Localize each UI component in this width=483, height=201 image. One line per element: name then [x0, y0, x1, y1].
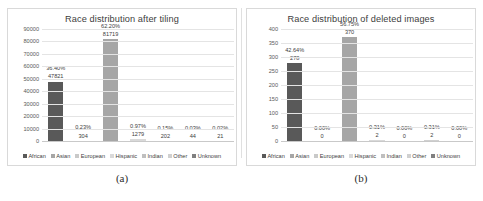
- legend-item-african[interactable]: African: [23, 153, 46, 159]
- legend-label: Indian: [387, 153, 402, 159]
- legend-label: Unknown: [437, 153, 460, 159]
- chart-a-bar-slot: 36.40%47821: [42, 29, 69, 141]
- chart-a-bar-slot: 0.03%44: [179, 29, 206, 141]
- chart-a-gridline: [42, 104, 234, 105]
- chart-b-y-tick: 50: [272, 124, 278, 130]
- legend-item-hispanic[interactable]: Hispanic: [110, 153, 137, 159]
- chart-b-plot-area: 050100150200250300350400 42.64%2780.00%0…: [247, 29, 477, 141]
- legend-item-other[interactable]: Other: [168, 153, 188, 159]
- chart-a-legend: AfricanAsianEuropeanHispanicIndianOtherU…: [8, 153, 236, 159]
- chart-b-y-tick: 400: [269, 26, 278, 32]
- chart-b-y-tick: 150: [269, 96, 278, 102]
- legend-label: European: [81, 153, 105, 159]
- legend-label: African: [267, 153, 284, 159]
- legend-label: Unknown: [198, 153, 221, 159]
- legend-swatch-icon: [349, 154, 353, 158]
- legend-item-indian[interactable]: Indian: [142, 153, 163, 159]
- caption-b: (b): [355, 172, 368, 184]
- chart-b-gridline: [281, 141, 473, 142]
- chart-b-y-tick: 250: [269, 68, 278, 74]
- chart-a-grid: 36.40%478210.23%30462.20%817190.97%12790…: [42, 29, 234, 141]
- legend-swatch-icon: [110, 154, 114, 158]
- chart-a-bar-slot: 0.97%1279: [124, 29, 151, 141]
- legend-swatch-icon: [51, 154, 55, 158]
- caption-a: (a): [116, 172, 128, 184]
- legend-swatch-icon: [431, 154, 435, 158]
- chart-a-bar-slot: 0.02%21: [207, 29, 234, 141]
- chart-b-legend: AfricanAsianEuropeanHispanicIndianOtherU…: [247, 153, 475, 159]
- chart-a-gridline: [42, 41, 234, 42]
- legend-swatch-icon: [142, 154, 146, 158]
- chart-b-gridline: [281, 71, 473, 72]
- chart-a-bar-slot: 0.15%202: [152, 29, 179, 141]
- chart-b-gridline: [281, 127, 473, 128]
- legend-swatch-icon: [407, 154, 411, 158]
- chart-b-y-tick: 100: [269, 110, 278, 116]
- chart-a-bar-slot: 0.23%304: [69, 29, 96, 141]
- chart-a-bar-slot: 62.20%81719: [97, 29, 124, 141]
- legend-swatch-icon: [314, 154, 318, 158]
- legend-label: Asian: [295, 153, 309, 159]
- chart-a-plot-area: 0100002000030000400005000060000700008000…: [8, 29, 238, 141]
- panel-divider: [241, 8, 242, 158]
- legend-item-indian[interactable]: Indian: [381, 153, 402, 159]
- legend-label: Other: [412, 153, 426, 159]
- chart-b-y-tick: 200: [269, 82, 278, 88]
- chart-a-y-tick: 40000: [23, 88, 39, 94]
- legend-swatch-icon: [168, 154, 172, 158]
- chart-b-grid: 42.64%2780.00%056.75%3700.31%20.00%00.31…: [281, 29, 473, 141]
- legend-swatch-icon: [290, 154, 294, 158]
- legend-label: Hispanic: [116, 153, 137, 159]
- legend-label: European: [320, 153, 344, 159]
- chart-a-gridline: [42, 141, 234, 142]
- chart-b-y-tick: 350: [269, 40, 278, 46]
- legend-item-asian[interactable]: Asian: [51, 153, 71, 159]
- chart-a-y-tick: 80000: [23, 38, 39, 44]
- legend-item-asian[interactable]: Asian: [290, 153, 310, 159]
- legend-label: Hispanic: [355, 153, 376, 159]
- chart-a-y-tick: 50000: [23, 76, 39, 82]
- chart-a-gridline: [42, 66, 234, 67]
- figure-panel-a: Race distribution after tiling 010000200…: [6, 8, 238, 184]
- chart-a-y-tick: 20000: [23, 113, 39, 119]
- chart-b-bar-african: [287, 63, 302, 141]
- chart-a-gridline: [42, 79, 234, 80]
- legend-item-hispanic[interactable]: Hispanic: [349, 153, 376, 159]
- legend-swatch-icon: [381, 154, 385, 158]
- legend-item-european[interactable]: European: [314, 153, 344, 159]
- legend-swatch-icon: [192, 154, 196, 158]
- chart-b-gridline: [281, 57, 473, 58]
- chart-a-y-tick: 90000: [23, 26, 39, 32]
- chart-b-gridline: [281, 113, 473, 114]
- legend-item-unknown[interactable]: Unknown: [192, 153, 221, 159]
- legend-item-european[interactable]: European: [75, 153, 105, 159]
- chart-b-gridline: [281, 43, 473, 44]
- chart-b-bar-european: [342, 37, 357, 141]
- legend-item-african[interactable]: African: [262, 153, 285, 159]
- chart-a-y-tick: 30000: [23, 101, 39, 107]
- legend-swatch-icon: [75, 154, 79, 158]
- legend-swatch-icon: [23, 154, 27, 158]
- chart-a-y-tick: 70000: [23, 51, 39, 57]
- legend-label: Indian: [148, 153, 163, 159]
- chart-b-y-tick: 300: [269, 54, 278, 60]
- chart-b-y-tick: 0: [275, 138, 278, 144]
- figure-panel-b: Race distribution of deleted images 0501…: [245, 8, 477, 184]
- legend-label: African: [28, 153, 45, 159]
- chart-a-y-tick: 60000: [23, 63, 39, 69]
- legend-swatch-icon: [262, 154, 266, 158]
- chart-b-y-axis: 050100150200250300350400: [247, 29, 281, 141]
- chart-b-gridline: [281, 29, 473, 30]
- legend-item-other[interactable]: Other: [407, 153, 427, 159]
- chart-a-bars: 36.40%478210.23%30462.20%817190.97%12790…: [42, 29, 234, 141]
- legend-item-unknown[interactable]: Unknown: [431, 153, 460, 159]
- chart-b-title: Race distribution of deleted images: [247, 14, 475, 24]
- chart-b: Race distribution of deleted images 0501…: [246, 8, 476, 166]
- chart-a-gridline: [42, 29, 234, 30]
- chart-b-gridline: [281, 85, 473, 86]
- chart-a-y-tick: 10000: [23, 126, 39, 132]
- chart-a: Race distribution after tiling 010000200…: [7, 8, 237, 166]
- chart-a-gridline: [42, 91, 234, 92]
- chart-a-gridline: [42, 129, 234, 130]
- chart-b-gridline: [281, 99, 473, 100]
